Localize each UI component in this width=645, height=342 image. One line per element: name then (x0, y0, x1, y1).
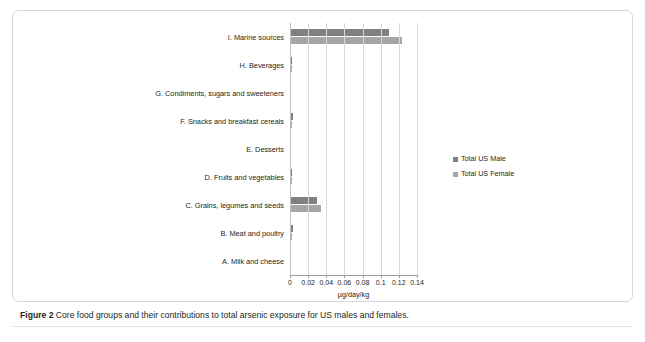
chart-legend: Total US Male Total US Female (453, 153, 514, 183)
bar-group (290, 247, 417, 275)
x-axis-tick (308, 275, 309, 278)
bar-female[interactable] (290, 233, 292, 240)
bar-female[interactable] (290, 121, 292, 128)
legend-swatch-male (453, 157, 458, 162)
x-axis-tick (344, 275, 345, 278)
category-label: G. Condiments, sugars and sweeteners (13, 89, 290, 98)
x-axis-tick (381, 275, 382, 278)
x-axis-tick-label: 0.02 (301, 279, 315, 286)
bar-female[interactable] (290, 149, 291, 156)
bar-group (290, 219, 417, 247)
bar-group (290, 191, 417, 219)
chart-category-rows: I. Marine sourcesH. BeveragesG. Condimen… (13, 23, 417, 275)
category-label: B. Meat and poultry (13, 229, 290, 238)
x-axis-tick-label: 0 (288, 279, 292, 286)
x-axis-tick-label: 0.1 (376, 279, 386, 286)
category-label: C. Grains, legumes and seeds (13, 201, 290, 210)
chart-row: B. Meat and poultry (13, 219, 417, 247)
x-axis-tick (399, 275, 400, 278)
legend-label-female: Total US Female (461, 168, 514, 180)
bar-group (290, 23, 417, 51)
bar-group (290, 51, 417, 79)
x-axis-title: µg/day/kg (290, 290, 417, 299)
bar-female[interactable] (290, 37, 402, 44)
bar-group (290, 163, 417, 191)
chart-row: C. Grains, legumes and seeds (13, 191, 417, 219)
category-label: F. Snacks and breakfast cereals (13, 117, 290, 126)
category-label: H. Beverages (13, 61, 290, 70)
category-label: D. Fruits and vegetables (13, 173, 290, 182)
category-label: E. Desserts (13, 145, 290, 154)
x-axis-tick (417, 275, 418, 278)
figure-caption: Figure 2 Core food groups and their cont… (20, 309, 625, 321)
bar-group (290, 107, 417, 135)
bar-male[interactable] (290, 29, 389, 36)
x-axis-tick (290, 275, 291, 278)
bar-male[interactable] (290, 141, 291, 148)
bar-group (290, 135, 417, 163)
bar-female[interactable] (290, 65, 292, 72)
x-axis-tick-label: 0.04 (319, 279, 333, 286)
chart-row: H. Beverages (13, 51, 417, 79)
bar-female[interactable] (290, 177, 292, 184)
category-label: A. Milk and cheese (13, 257, 290, 266)
x-axis-tick-label: 0.12 (392, 279, 406, 286)
bar-male[interactable] (290, 57, 292, 64)
bar-male[interactable] (290, 197, 317, 204)
chart-row: I. Marine sources (13, 23, 417, 51)
x-axis-tick (363, 275, 364, 278)
category-label: I. Marine sources (13, 33, 290, 42)
legend-swatch-female (453, 172, 458, 177)
chart-row: F. Snacks and breakfast cereals (13, 107, 417, 135)
figure-caption-text: Core food groups and their contributions… (53, 310, 408, 320)
bar-group (290, 79, 417, 107)
gridline (417, 23, 418, 275)
x-axis-tick-label: 0.08 (356, 279, 370, 286)
caption-divider (12, 326, 633, 327)
legend-item-total-us-male[interactable]: Total US Male (453, 153, 514, 165)
legend-item-total-us-female[interactable]: Total US Female (453, 168, 514, 180)
chart-row: E. Desserts (13, 135, 417, 163)
x-axis-tick-label: 0.06 (338, 279, 352, 286)
bar-male[interactable] (290, 225, 293, 232)
chart-row: A. Milk and cheese (13, 247, 417, 275)
bar-female[interactable] (290, 205, 321, 212)
legend-label-male: Total US Male (461, 153, 506, 165)
figure-panel: I. Marine sourcesH. BeveragesG. Condimen… (12, 10, 633, 302)
x-axis-tick (326, 275, 327, 278)
bar-male[interactable] (290, 113, 293, 120)
x-axis-tick-label: 0.14 (410, 279, 424, 286)
chart-plot-area: I. Marine sourcesH. BeveragesG. Condimen… (13, 11, 632, 301)
chart-row: D. Fruits and vegetables (13, 163, 417, 191)
chart-row: G. Condiments, sugars and sweeteners (13, 79, 417, 107)
figure-caption-label: Figure 2 (20, 310, 53, 320)
bar-male[interactable] (290, 169, 292, 176)
